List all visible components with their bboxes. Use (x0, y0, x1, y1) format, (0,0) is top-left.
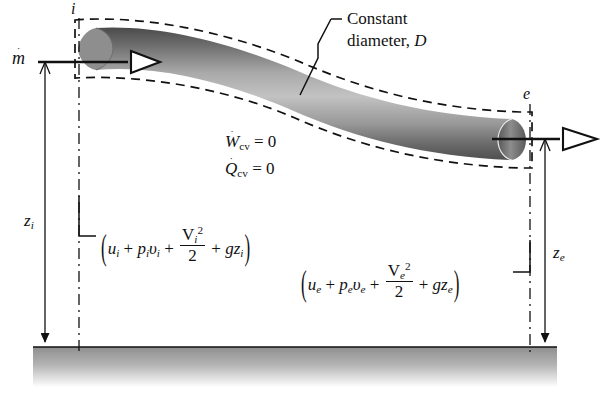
inlet-internal-energy: u (108, 239, 117, 258)
exit-expression-bracket (513, 240, 530, 272)
plus-6: + (419, 275, 429, 294)
exit-internal-energy: u (308, 275, 317, 294)
inlet-sub-u: i (116, 247, 119, 259)
plus-5: + (370, 275, 380, 294)
inlet-sub-z: i (240, 247, 243, 259)
inlet-kinetic-term: Vi2 2 (180, 224, 205, 265)
exit-sub-v: e (361, 283, 366, 295)
work-rate-assumption: ˙Wcv = 0 (225, 133, 276, 152)
exit-kinetic-denominator: 2 (386, 282, 413, 301)
elevation-exit-symbol: z (553, 243, 560, 262)
elevation-exit-label: ze (553, 244, 565, 263)
ground-datum (33, 347, 557, 387)
inlet-pressure: p (137, 239, 146, 258)
elevation-dimension-inlet (40, 62, 50, 342)
elevation-dimension-exit (540, 139, 550, 342)
work-rate-value: 0 (268, 132, 277, 151)
elevation-inlet-label: zi (24, 212, 34, 231)
elevation-exit-subscript: e (560, 251, 565, 263)
open-paren-exit: ( (301, 266, 307, 303)
mass-flow-label: ˙m (12, 49, 25, 67)
work-rate-equals: = (254, 132, 264, 151)
exit-kinetic-term: Ve2 2 (386, 260, 413, 301)
exit-velocity: V (388, 261, 400, 280)
exit-energy-expression: (ue + peυe + Ve2 2 + gze) (300, 260, 460, 301)
figure-canvas: i e ˙m Constant diameter, D ˙Wcv = 0 ˙Qc… (0, 0, 607, 399)
duct-body (78, 27, 526, 160)
elevation-inlet-subscript: i (31, 219, 34, 231)
elevation-inlet-symbol: z (24, 211, 31, 230)
exit-velocity-exponent: 2 (405, 260, 411, 272)
plus-1: + (124, 239, 134, 258)
close-paren-exit: ) (454, 266, 460, 303)
plus-2: + (164, 239, 174, 258)
inlet-expression-bracket (79, 196, 96, 236)
inlet-station-label: i (71, 1, 75, 17)
heat-rate-value: 0 (266, 159, 275, 178)
close-paren: ) (244, 230, 250, 267)
exit-potential-term: gz (433, 275, 448, 294)
diagram-svg (0, 0, 607, 399)
work-rate-subscript: cv (239, 140, 250, 152)
inlet-velocity: V (182, 225, 194, 244)
inlet-velocity-exponent: 2 (197, 224, 203, 236)
exit-station-label: e (523, 86, 530, 102)
exit-pressure: p (339, 275, 348, 294)
diameter-symbol: D (414, 31, 426, 50)
plus-3: + (211, 239, 221, 258)
constant-diameter-label: Constant diameter, D (347, 8, 427, 52)
inlet-sub-v: i (157, 247, 160, 259)
plus-4: + (325, 275, 335, 294)
exit-sub-u: e (316, 283, 321, 295)
heat-rate-subscript: cv (237, 167, 248, 179)
inlet-potential-term: gz (225, 239, 240, 258)
constant-diameter-line2: diameter, (347, 31, 410, 50)
inlet-specific-volume: υ (149, 239, 157, 258)
open-paren: ( (101, 230, 107, 267)
inlet-energy-expression: (ui + piυi + Vi2 2 + gzi) (100, 224, 251, 265)
constant-diameter-line1: Constant (347, 9, 407, 28)
inlet-kinetic-denominator: 2 (180, 246, 205, 265)
exit-specific-volume: υ (353, 275, 361, 294)
heat-rate-equals: = (252, 159, 262, 178)
heat-rate-assumption: ˙Qcv = 0 (225, 160, 274, 179)
exit-sub-z: e (448, 283, 453, 295)
